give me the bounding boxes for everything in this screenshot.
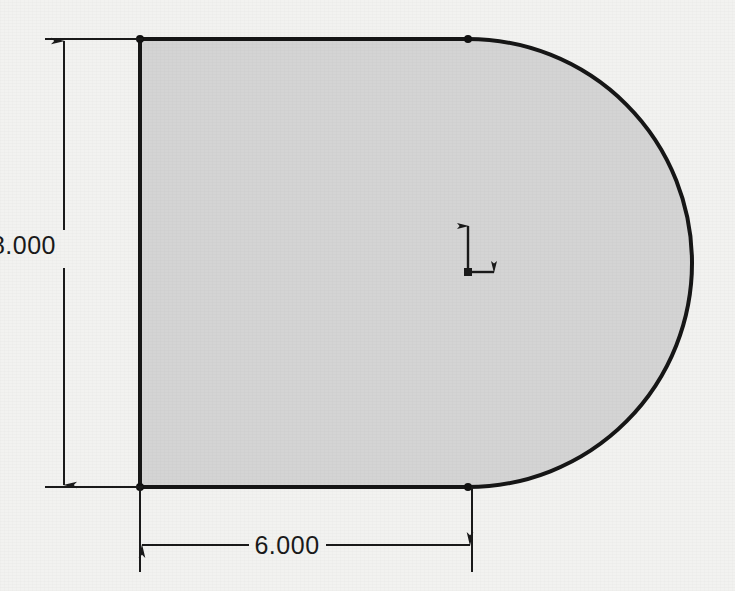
top-tangent-point-marker — [464, 35, 472, 43]
d-shape-profile — [140, 39, 692, 487]
horizontal-dim-value-text: 6.000 — [254, 531, 319, 559]
vertical-height-dimension: 8.000 — [0, 39, 143, 487]
bottom-tangent-point-marker — [464, 483, 472, 491]
part-profile-group — [140, 39, 692, 487]
origin-point-marker — [464, 268, 472, 276]
horizontal-width-dimension: 6.000 — [140, 487, 472, 572]
technical-drawing-canvas: 8.000 6.000 — [0, 0, 735, 591]
vertical-dim-value-text: 8.000 — [0, 231, 56, 259]
